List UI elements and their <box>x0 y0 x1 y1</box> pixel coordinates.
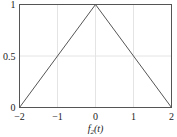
chart: −2−1012 00.51 f2(t) <box>0 0 177 137</box>
y-axis-ticks: 00.51 <box>3 0 16 113</box>
x-tick-label: −2 <box>14 111 25 122</box>
x-axis-ticks: −2−1012 <box>14 111 174 122</box>
x-tick-label: −1 <box>52 111 63 122</box>
grid-lines <box>20 5 172 108</box>
x-tick-label: 1 <box>131 111 136 122</box>
y-tick-label: 1 <box>11 0 16 10</box>
x-axis-label: f2(t) <box>88 123 104 136</box>
x-tick-label: 0 <box>93 111 98 122</box>
y-tick-label: 0 <box>11 102 16 113</box>
y-tick-label: 0.5 <box>3 51 16 62</box>
x-tick-label: 2 <box>169 111 174 122</box>
